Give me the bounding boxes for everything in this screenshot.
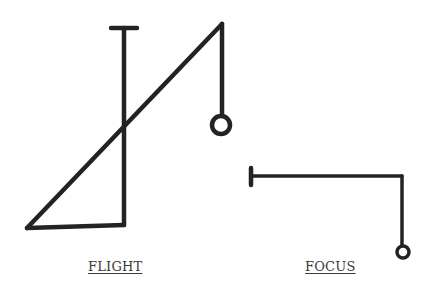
flight-base-line xyxy=(27,225,124,228)
focus-ring xyxy=(397,246,409,258)
focus-label: FOCUS xyxy=(305,259,356,274)
focus-symbol xyxy=(251,168,409,258)
flight-symbol xyxy=(27,24,230,228)
flight-label: FLIGHT xyxy=(88,259,142,274)
flight-ring xyxy=(212,116,230,134)
diagram-canvas xyxy=(0,0,433,304)
